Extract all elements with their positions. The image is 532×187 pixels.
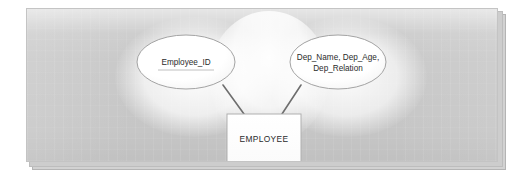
entity-node-employee[interactable]: EMPLOYEE	[227, 114, 301, 162]
connector-dependent	[282, 85, 301, 114]
attribute-node-dependent[interactable]: Dep_Name, Dep_Age, Dep_Relation	[290, 35, 386, 89]
diagram-canvas: Employee_ID Dep_Name, Dep_Age, Dep_Relat…	[0, 0, 532, 187]
diagram-panel-stack: Employee_ID Dep_Name, Dep_Age, Dep_Relat…	[26, 8, 506, 170]
diagram-panel: Employee_ID Dep_Name, Dep_Age, Dep_Relat…	[26, 8, 498, 162]
attribute-ellipse-dependent	[290, 35, 386, 89]
attribute-label-employee-id: Employee_ID	[161, 58, 210, 67]
entity-label-employee: EMPLOYEE	[240, 134, 289, 144]
er-diagram-graphic: Employee_ID Dep_Name, Dep_Age, Dep_Relat…	[27, 9, 498, 162]
attribute-label-dependent-line2: Dep_Relation	[313, 64, 363, 73]
connector-employee-id	[223, 85, 244, 114]
attribute-node-employee-id[interactable]: Employee_ID	[137, 35, 235, 89]
attribute-label-dependent-line1: Dep_Name, Dep_Age,	[297, 53, 379, 62]
